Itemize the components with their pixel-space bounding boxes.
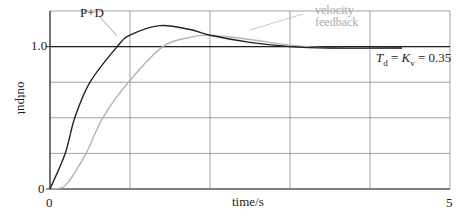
- parameter-annotation: Td = Kv = 0.35: [376, 50, 451, 68]
- x-tick-0: 0: [46, 195, 53, 211]
- grid: [46, 11, 450, 189]
- y-axis-label: output: [14, 81, 30, 114]
- pd-curve: [50, 25, 402, 189]
- y-tick-1: 1.0: [31, 38, 47, 54]
- line-chart: [0, 0, 469, 222]
- curves: [50, 25, 402, 189]
- x-tick-5: 5: [446, 195, 453, 211]
- x-axis-label: time/s: [232, 194, 264, 210]
- velocity-leader-line: [250, 14, 303, 30]
- pd-series-label: P+D: [80, 5, 104, 21]
- velocity-feedback-curve: [50, 35, 402, 189]
- velocity-series-label-line2: feedback: [315, 16, 358, 28]
- y-tick-0: 0: [38, 181, 45, 197]
